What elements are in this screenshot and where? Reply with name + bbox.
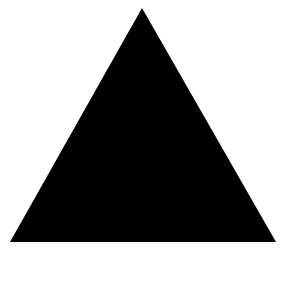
- triangle-canvas: [0, 0, 292, 297]
